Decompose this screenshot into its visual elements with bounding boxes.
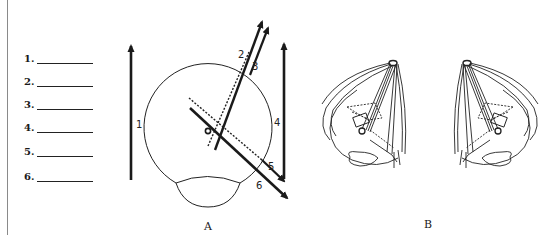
arrow-6-icon [190,108,287,198]
diagram-canvas: 1 2 3 4 5 6 [0,0,557,235]
figure-b-caption: B [424,218,432,231]
arrow-label-3: 3 [252,61,258,72]
dotted-axis-lower [189,98,262,160]
arrow-label-4: 4 [274,117,280,128]
arrow-2-icon [215,22,262,150]
arrow-label-5: 5 [268,161,274,172]
figure-a-caption: A [204,220,212,233]
arrow-label-1: 1 [136,119,142,130]
figure-a-eye-diagram: 1 2 3 4 5 6 [131,22,287,207]
cornea-outline [176,177,240,208]
figure-b-left-eye-muscles [322,60,406,168]
figure-b-right-eye-muscles [454,60,538,168]
pivot-point-icon [205,128,210,133]
arrow-label-6: 6 [256,180,262,191]
arrow-label-2: 2 [238,49,244,60]
